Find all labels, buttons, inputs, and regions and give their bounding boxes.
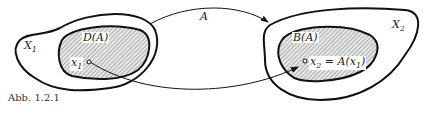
point-x1	[87, 60, 91, 64]
label-mapping-a: A	[200, 11, 208, 22]
figure-caption: Abb. 1.2.1	[8, 92, 60, 103]
label-b-a: B(A)	[292, 32, 319, 43]
point-x2	[303, 59, 307, 63]
label-x2: X2	[392, 19, 405, 33]
label-d-a: D(A)	[82, 32, 109, 43]
diagram-canvas	[0, 0, 437, 113]
label-point-x2: x2 = A(x1)	[309, 56, 366, 70]
mapping-arrow-top	[150, 8, 268, 24]
label-x1: X1	[24, 40, 37, 54]
label-point-x1: x1	[70, 57, 83, 71]
